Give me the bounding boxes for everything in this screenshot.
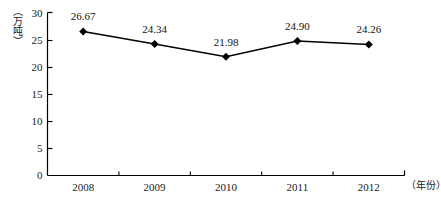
line-chart: （万吨） 051015202530 20082009201020112012 2… xyxy=(0,0,441,206)
axis-lines xyxy=(48,13,405,176)
x-axis-unit-label: （年份） xyxy=(406,180,441,192)
data-point-markers xyxy=(79,27,373,60)
plot-area xyxy=(0,0,441,206)
axis-ticks xyxy=(48,41,334,176)
